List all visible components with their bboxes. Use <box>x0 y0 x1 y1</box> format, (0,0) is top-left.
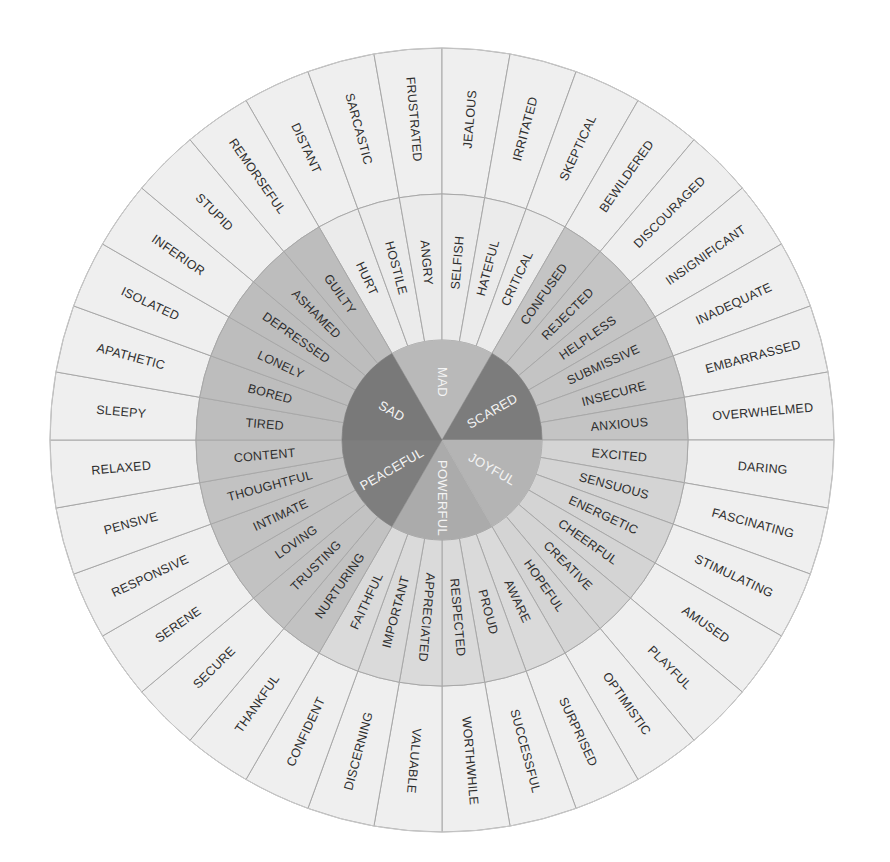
core-label: POWERFUL <box>435 460 450 536</box>
core-label: MAD <box>435 367 450 397</box>
feelings-wheel: HURTDISTANTHOSTILESARCASTICANGRYFRUSTRAT… <box>0 0 890 862</box>
